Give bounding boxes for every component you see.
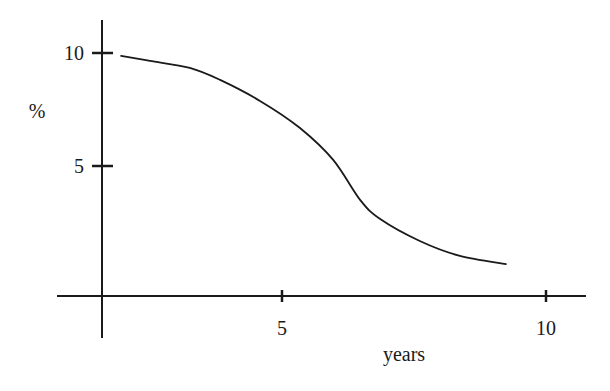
y-tick-label: 5 <box>74 155 84 177</box>
y-tick-label: 10 <box>64 42 84 64</box>
y-axis-label: % <box>29 100 46 122</box>
x-axis-label: years <box>383 343 425 366</box>
x-tick-label: 5 <box>277 317 287 339</box>
data-curve <box>121 56 506 264</box>
x-tick-label: 10 <box>536 317 556 339</box>
x-ticks: 510 <box>277 290 556 339</box>
line-chart: 510 510 % years <box>0 0 610 391</box>
y-ticks: 510 <box>64 42 113 177</box>
